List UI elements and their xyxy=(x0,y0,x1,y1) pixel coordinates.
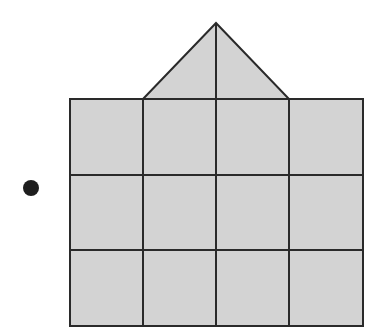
grid-cell xyxy=(70,175,143,250)
grid-cell xyxy=(143,175,216,250)
grid-cell xyxy=(70,99,143,175)
grid-body xyxy=(70,99,363,326)
roof xyxy=(143,23,289,99)
grid-cell xyxy=(216,250,289,326)
grid-cell xyxy=(143,99,216,175)
grid-cell xyxy=(216,99,289,175)
grid-cell xyxy=(289,99,363,175)
grid-cell xyxy=(289,250,363,326)
grid-cell xyxy=(216,175,289,250)
grid-cell xyxy=(289,175,363,250)
grid-cell xyxy=(70,250,143,326)
grid-cell xyxy=(143,250,216,326)
black-dot xyxy=(23,180,39,196)
house-grid-figure xyxy=(0,0,385,336)
